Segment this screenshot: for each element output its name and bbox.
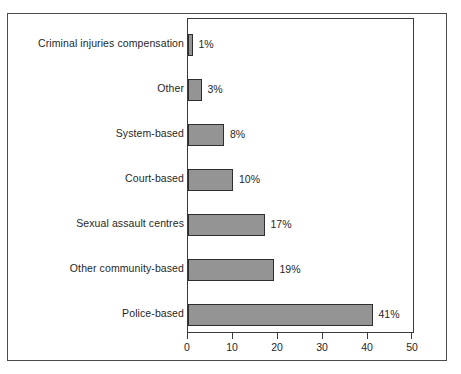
bar-other-community-based <box>188 259 274 281</box>
x-tick-mark-0 <box>187 333 188 339</box>
category-label-other: Other <box>8 83 184 94</box>
x-tick-mark-10 <box>232 333 233 339</box>
bar-criminal-injuries-compensation <box>188 34 193 56</box>
x-tick-label-0: 0 <box>184 341 190 353</box>
bar-value-other-community-based: 19% <box>280 264 301 275</box>
bar-court-based <box>188 169 233 191</box>
category-label-sexual-assault-centres: Sexual assault centres <box>8 218 184 229</box>
x-tick-label-40: 40 <box>361 341 373 353</box>
horizontal-bar-chart: Criminal injuries compensation Other Sys… <box>0 0 461 374</box>
bar-value-sexual-assault-centres: 17% <box>271 219 292 230</box>
x-tick-label-50: 50 <box>406 341 418 353</box>
category-label-other-community-based: Other community-based <box>8 263 184 274</box>
bar-value-system-based: 8% <box>230 129 245 140</box>
bar-value-court-based: 10% <box>239 174 260 185</box>
x-tick-mark-20 <box>277 333 278 339</box>
x-tick-mark-40 <box>367 333 368 339</box>
x-tick-label-30: 30 <box>316 341 328 353</box>
x-tick-mark-30 <box>322 333 323 339</box>
x-axis: 0 10 20 30 40 50 <box>187 333 414 363</box>
x-tick-label-20: 20 <box>271 341 283 353</box>
bar-value-criminal-injuries-compensation: 1% <box>199 39 214 50</box>
bar-value-other: 3% <box>208 84 223 95</box>
bar-police-based <box>188 304 373 326</box>
bar-sexual-assault-centres <box>188 214 265 236</box>
category-label-police-based: Police-based <box>8 308 184 319</box>
bar-value-police-based: 41% <box>379 309 400 320</box>
bar-system-based <box>188 124 224 146</box>
category-label-criminal-injuries-compensation: Criminal injuries compensation <box>8 38 184 49</box>
bar-other <box>188 79 202 101</box>
category-label-column: Criminal injuries compensation Other Sys… <box>4 0 184 374</box>
category-label-court-based: Court-based <box>8 173 184 184</box>
x-tick-label-10: 10 <box>226 341 238 353</box>
x-tick-mark-50 <box>411 333 412 339</box>
plot-area: 1% 3% 8% 10% 17% 19% 41% <box>187 18 414 333</box>
category-label-system-based: System-based <box>8 128 184 139</box>
